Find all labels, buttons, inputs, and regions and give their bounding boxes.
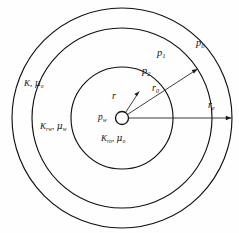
radius-arrow-re bbox=[122, 116, 232, 120]
label-inner-zone-properties: Kro, μo bbox=[101, 134, 125, 143]
label-outer-zone-properties: K, μo bbox=[24, 79, 44, 88]
label-pressure-one: p1 bbox=[157, 48, 166, 59]
label-pressure-well: pw bbox=[98, 113, 107, 123]
diagram-canvas bbox=[0, 0, 239, 233]
radial-flow-diagram: p0 p1 p2 pw r r0 re K, μo Krw, μw Kro, μ… bbox=[0, 0, 239, 233]
label-pressure-outer: p0 bbox=[196, 38, 205, 49]
label-radius-r: r bbox=[112, 91, 116, 101]
label-middle-zone-properties: Krw, μw bbox=[40, 122, 66, 131]
radius-arrow-r0 bbox=[122, 69, 198, 118]
label-pressure-two: p2 bbox=[142, 66, 151, 77]
label-radius-r0: r0 bbox=[152, 83, 159, 93]
wellbore-circle bbox=[116, 112, 129, 125]
label-radius-re: re bbox=[208, 100, 215, 110]
